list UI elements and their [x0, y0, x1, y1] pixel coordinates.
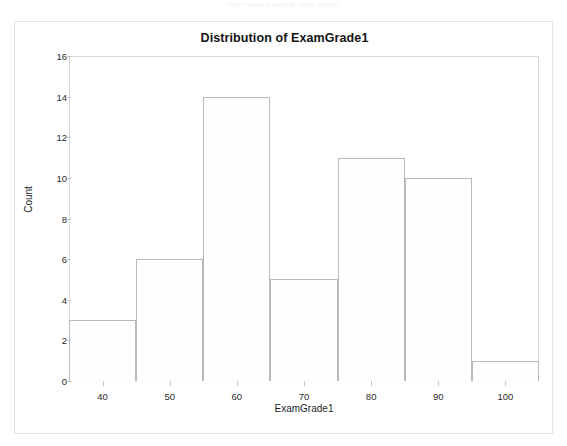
histogram-bar — [270, 279, 337, 381]
x-tick-mark — [237, 381, 238, 386]
y-tick-mark — [67, 219, 71, 220]
x-tick-label: 70 — [299, 391, 310, 402]
y-tick-label: 16 — [43, 51, 67, 62]
histogram-bar — [405, 178, 472, 381]
x-axis-label: ExamGrade1 — [69, 403, 539, 414]
y-tick-label: 12 — [43, 132, 67, 143]
chart-title: Distribution of ExamGrade1 — [15, 31, 554, 45]
y-tick-mark — [67, 340, 71, 341]
x-tick-label: 60 — [232, 391, 243, 402]
histogram-bars — [69, 56, 539, 381]
histogram-bar — [203, 97, 270, 381]
y-tick-mark — [67, 300, 71, 301]
x-tick-mark — [304, 381, 305, 386]
y-tick-mark — [67, 137, 71, 138]
y-tick-mark — [67, 56, 71, 57]
chart-figure: Distribution of ExamGrade1 0246810121416… — [14, 21, 553, 434]
y-tick-label: 10 — [43, 172, 67, 183]
y-tick-mark — [67, 178, 71, 179]
x-axis: 405060708090100 — [69, 381, 539, 421]
y-tick-label: 14 — [43, 91, 67, 102]
y-tick-label: 6 — [43, 254, 67, 265]
y-tick-mark — [67, 97, 71, 98]
histogram-bar — [69, 320, 136, 381]
y-axis: 0246810121416 — [37, 56, 67, 381]
x-tick-label: 100 — [497, 391, 513, 402]
histogram-bar — [338, 158, 405, 381]
x-tick-mark — [438, 381, 439, 386]
y-axis-label: Count — [23, 170, 34, 230]
x-tick-mark — [505, 381, 506, 386]
x-tick-label: 50 — [164, 391, 175, 402]
y-tick-label: 0 — [43, 376, 67, 387]
y-tick-label: 2 — [43, 335, 67, 346]
x-tick-label: 90 — [433, 391, 444, 402]
x-tick-mark — [103, 381, 104, 386]
x-tick-mark — [371, 381, 372, 386]
y-tick-label: 8 — [43, 213, 67, 224]
y-tick-mark — [67, 259, 71, 260]
x-tick-label: 80 — [366, 391, 377, 402]
page-watermark: http://www.example-stats-output — [0, 1, 567, 8]
y-tick-label: 4 — [43, 294, 67, 305]
histogram-bar — [136, 259, 203, 381]
x-tick-mark — [170, 381, 171, 386]
histogram-bar — [472, 361, 539, 381]
x-tick-label: 40 — [97, 391, 108, 402]
